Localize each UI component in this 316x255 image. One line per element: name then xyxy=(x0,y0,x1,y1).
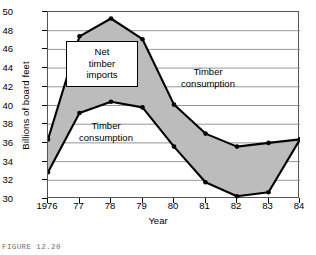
annotation-timber-consumption-lower: Timber consumption xyxy=(60,120,152,143)
y-tick-label: 44 xyxy=(0,63,13,73)
annotation-net-timber-imports: Net timber imports xyxy=(66,41,138,87)
y-tick-label: 38 xyxy=(0,119,13,129)
chart-figure: Billions of board feet 50 48 46 44 42 40… xyxy=(0,0,316,255)
y-tick-label: 32 xyxy=(0,175,13,185)
y-axis-title: Billions of board feet xyxy=(20,26,31,186)
x-axis-title: Year xyxy=(0,215,316,226)
y-tick-label: 50 xyxy=(0,7,13,17)
y-tick-label: 30 xyxy=(0,194,13,204)
annotation-timber-consumption-upper: Timber consumption xyxy=(160,66,256,89)
y-tick-label: 36 xyxy=(0,138,13,148)
plot-area xyxy=(47,11,299,198)
x-tick-label: 84 xyxy=(279,201,316,211)
y-tick-label: 34 xyxy=(0,157,13,167)
y-tick-label: 40 xyxy=(0,101,13,111)
y-tick-label: 46 xyxy=(0,44,13,54)
y-tick-label: 42 xyxy=(0,82,13,92)
figure-caption: FIGURE 12.20 xyxy=(2,243,61,252)
y-tick-label: 48 xyxy=(0,26,13,36)
